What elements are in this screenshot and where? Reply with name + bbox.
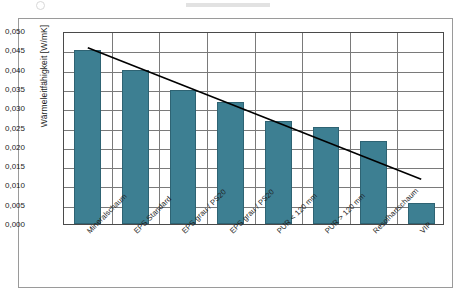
x-axis-category-label: EPS grau / PS20: [228, 187, 276, 235]
x-axis-category-label: Resolhartschaum: [371, 186, 420, 235]
x-axis-category-label: EPS Standard: [132, 194, 173, 235]
scan-artifacts: [0, 0, 468, 16]
x-axis-category-label: PUR < 120 mm: [275, 191, 319, 235]
figure-frame: Wärmeleitfähigkeit [W/mK] 0,0000,0050,01…: [18, 18, 453, 288]
x-axis-category-label: EPS grau / PS20: [180, 187, 228, 235]
x-axis-category-label: Mineralschaum: [85, 192, 129, 236]
x-axis-category-labels: MineralschaumEPS StandardEPS grau / PS20…: [19, 19, 454, 289]
scan-artifact-smudge: [186, 3, 270, 7]
x-axis-category-label: PUR > 120 mm: [323, 191, 367, 235]
bar-chart: Wärmeleitfähigkeit [W/mK] 0,0000,0050,01…: [19, 19, 454, 289]
x-axis-category-label: VIP: [418, 220, 433, 235]
